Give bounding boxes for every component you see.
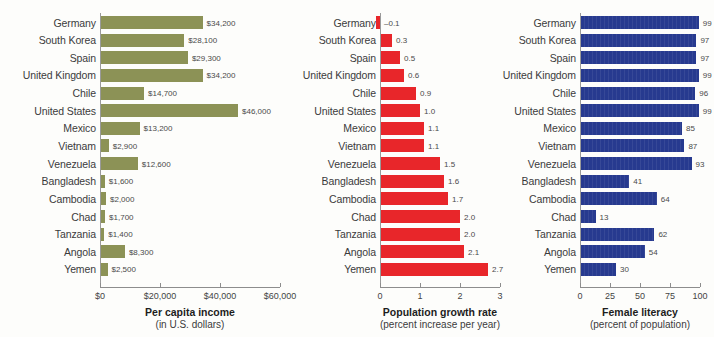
bar-value-label: 64 [661,194,670,203]
bar [580,87,695,100]
bar-row: Bangladesh41 [0,175,714,188]
bar-row: United States99 [0,104,714,117]
category-label: United Kingdom [0,69,576,81]
y-axis-baseline [580,13,581,287]
bar [580,175,629,188]
bar-row: Chad13 [0,210,714,223]
bar-row: Vietnam87 [0,139,714,152]
category-label: Chile [0,87,576,99]
bar-row: Germany99 [0,16,714,29]
bar-row: Chile96 [0,87,714,100]
three-panel-bar-chart-figure: Germany$34,200South Korea$28,100Spain$29… [0,0,714,337]
category-label: United States [0,105,576,117]
x-axis-line [580,287,700,288]
bar-row: Tanzania62 [0,228,714,241]
category-label: Venezuela [0,158,576,170]
bar-value-label: 99 [703,71,712,80]
bar-value-label: 99 [703,106,712,115]
bar-value-label: 13 [600,212,609,221]
x-axis-tick-label: 25 [605,291,615,301]
x-axis-tick [640,283,641,287]
bar-row: Mexico85 [0,122,714,135]
x-axis-tick [610,283,611,287]
bar [580,245,645,258]
x-axis-tick-label: 0 [577,291,582,301]
bar-value-label: 87 [688,141,697,150]
category-label: Spain [0,52,576,64]
bar [580,51,696,64]
x-axis-tick [580,283,581,287]
bar [580,157,692,170]
bar-row: Spain97 [0,51,714,64]
bar [580,34,696,47]
bar-value-label: 62 [658,230,667,239]
bar-row: United Kingdom99 [0,69,714,82]
bar-value-label: 97 [700,53,709,62]
category-label: Chad [0,211,576,223]
category-label: Cambodia [0,193,576,205]
bar [580,69,699,82]
bar [580,122,682,135]
bar [580,210,596,223]
bar [580,104,699,117]
category-label: Angola [0,246,576,258]
x-axis-tick-label: 50 [635,291,645,301]
axis-title: Female literacy [490,306,714,318]
bar [580,16,699,29]
bar-value-label: 85 [686,124,695,133]
bar [580,139,684,152]
category-label: South Korea [0,34,576,46]
axis-subtitle: (percent of population) [490,319,714,330]
bar-row: Yemen30 [0,263,714,276]
category-label: Vietnam [0,140,576,152]
category-label: Tanzania [0,228,576,240]
bar [580,192,657,205]
bar [580,263,616,276]
x-axis-tick [700,283,701,287]
category-label: Yemen [0,263,576,275]
bar-row: Cambodia64 [0,192,714,205]
x-axis-tick [670,283,671,287]
bar-row: South Korea97 [0,34,714,47]
bar-row: Venezuela93 [0,157,714,170]
bar-value-label: 30 [620,265,629,274]
category-label: Bangladesh [0,175,576,187]
x-axis-tick-label: 75 [665,291,675,301]
bar-value-label: 93 [696,159,705,168]
category-label: Mexico [0,122,576,134]
bar-value-label: 54 [649,247,658,256]
bar-value-label: 99 [703,18,712,27]
x-axis-tick-label: 100 [692,291,707,301]
chart-panel-female-literacy: Germany99South Korea97Spain97United King… [0,0,714,337]
bar-value-label: 96 [699,89,708,98]
bar-value-label: 97 [700,36,709,45]
category-label: Germany [0,17,576,29]
bar-row: Angola54 [0,245,714,258]
bar-value-label: 41 [633,177,642,186]
bar [580,228,654,241]
